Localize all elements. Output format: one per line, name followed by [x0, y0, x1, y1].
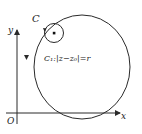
inner-circle-arrow-icon [43, 28, 47, 32]
label-c: C [32, 13, 40, 24]
label-origin: O [7, 116, 15, 126]
label-c1-equation: C₁:|z−z₀|=r [44, 54, 91, 63]
outer-contour-c [34, 15, 130, 119]
center-point-z0 [53, 32, 56, 35]
contour-diagram: C C₁:|z−z₀|=r y x O [0, 0, 142, 134]
label-x: x [121, 111, 126, 121]
outer-contour-arrow-icon [24, 55, 29, 60]
label-y: y [7, 25, 14, 35]
